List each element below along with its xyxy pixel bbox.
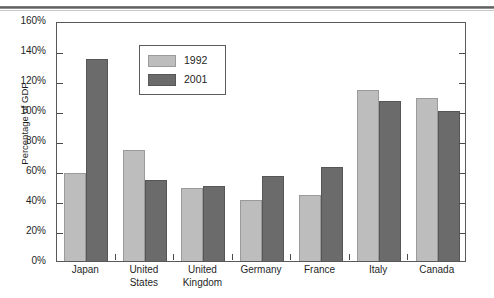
x-axis-group-divider xyxy=(115,254,116,260)
y-axis-tick-label: 120% xyxy=(20,75,46,86)
bar-united-kingdom-2001 xyxy=(203,186,225,261)
y-axis-tick-label: 160% xyxy=(20,15,46,26)
x-axis-label-line: France xyxy=(290,264,349,277)
bar-japan-1992 xyxy=(64,173,86,262)
y-axis-tick-label: 20% xyxy=(26,225,46,236)
x-axis-label-line: Canada xyxy=(407,264,466,277)
y-axis-right-tick xyxy=(459,83,465,84)
legend-swatch-2001 xyxy=(148,74,176,86)
x-axis-label-united-kingdom: UnitedKingdom xyxy=(173,264,232,289)
y-axis-tick-label: 0% xyxy=(32,255,46,266)
bar-italy-2001 xyxy=(379,101,401,262)
y-axis-right-tick xyxy=(459,233,465,234)
bar-germany-2001 xyxy=(262,176,284,262)
bar-italy-1992 xyxy=(357,90,379,261)
y-axis-inner-tick xyxy=(57,233,63,234)
x-axis-label-line: Japan xyxy=(56,264,115,277)
page-header-rule-secondary xyxy=(0,10,494,11)
bar-france-1992 xyxy=(299,195,321,261)
x-axis-group-divider xyxy=(290,254,291,260)
y-axis-inner-tick xyxy=(57,53,63,54)
x-axis-label-line: United xyxy=(115,264,174,277)
y-axis-inner-tick xyxy=(57,173,63,174)
bar-united-states-2001 xyxy=(145,180,167,261)
y-axis-inner-tick xyxy=(57,113,63,114)
x-axis-label-france: France xyxy=(290,264,349,277)
y-axis-right-tick xyxy=(459,203,465,204)
x-axis-label-canada: Canada xyxy=(407,264,466,277)
x-axis-label-line: United xyxy=(173,264,232,277)
legend-label-1992: 1992 xyxy=(184,54,207,66)
x-axis-group-divider xyxy=(349,254,350,260)
y-axis-inner-tick xyxy=(57,203,63,204)
x-axis-label-line: States xyxy=(115,277,174,290)
y-axis-tick-label: 40% xyxy=(26,195,46,206)
x-axis-group-divider xyxy=(407,254,408,260)
bar-united-states-1992 xyxy=(123,150,145,261)
y-axis-tick-label: 100% xyxy=(20,105,46,116)
y-axis-right-tick xyxy=(459,143,465,144)
x-axis-label-line: Germany xyxy=(232,264,291,277)
bar-chart: Percentage of GDP 0%20%40%60%80%100%120%… xyxy=(0,14,494,298)
x-axis-group-divider xyxy=(232,254,233,260)
x-axis-label-united-states: UnitedStates xyxy=(115,264,174,289)
x-axis-group-divider xyxy=(173,254,174,260)
x-axis-label-germany: Germany xyxy=(232,264,291,277)
x-axis-label-italy: Italy xyxy=(349,264,408,277)
y-axis-tick-label: 60% xyxy=(26,165,46,176)
x-axis-label-line: Italy xyxy=(349,264,408,277)
y-axis-inner-tick xyxy=(57,143,63,144)
bar-germany-1992 xyxy=(240,200,262,262)
bar-canada-1992 xyxy=(416,98,438,262)
x-axis-label-japan: Japan xyxy=(56,264,115,277)
y-axis-right-tick xyxy=(459,53,465,54)
y-axis-tick-label: 80% xyxy=(26,135,46,146)
plot-area: 1992 2001 xyxy=(56,22,466,262)
y-axis-tick-label: 140% xyxy=(20,45,46,56)
y-axis-inner-tick xyxy=(57,83,63,84)
bar-united-kingdom-1992 xyxy=(181,188,203,262)
bar-japan-2001 xyxy=(86,59,108,262)
page-header-rule xyxy=(0,6,494,9)
y-axis-right-tick xyxy=(459,173,465,174)
legend-swatch-1992 xyxy=(148,55,176,67)
bar-france-2001 xyxy=(321,167,343,262)
bar-canada-2001 xyxy=(438,111,460,261)
legend-label-2001: 2001 xyxy=(184,73,207,85)
chart-legend: 1992 2001 xyxy=(139,45,226,95)
y-axis-right-tick xyxy=(459,113,465,114)
x-axis-label-line: Kingdom xyxy=(173,277,232,290)
